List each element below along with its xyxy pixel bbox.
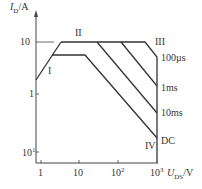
curve-100us: [61, 42, 157, 163]
curve-label-10ms: 10ms: [161, 108, 183, 118]
region-label-II: II: [75, 28, 82, 38]
curve-10ms: [97, 42, 157, 113]
region-label-IV: IV: [145, 141, 156, 151]
curve-label-1ms: 1ms: [161, 83, 178, 93]
curve-label-dc: DC: [161, 136, 175, 146]
y-tick-label-1: 1: [29, 89, 34, 99]
y-tick-label-0.1: 101: [22, 148, 36, 158]
y-axis-label: ID/A: [10, 2, 28, 12]
curve-1ms: [121, 42, 157, 86]
x-tick-label-1000: 103: [150, 168, 164, 178]
x-axis-label: UDS/V: [167, 168, 193, 178]
x-tick-label-1: 1: [38, 168, 43, 178]
curve-label-100us: 100µs: [161, 53, 186, 63]
region-label-I: I: [48, 66, 51, 76]
y-tick-label-10: 10: [20, 37, 30, 47]
x-tick-label-100: 102: [111, 168, 125, 178]
y-axis-arrow-icon: [34, 10, 38, 17]
x-tick-label-10: 10: [73, 168, 83, 178]
region-label-III: III: [155, 37, 165, 47]
